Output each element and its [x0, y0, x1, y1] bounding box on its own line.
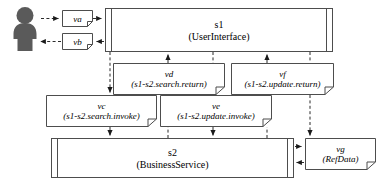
- note-vb[interactable]: vb: [62, 33, 93, 50]
- note-vg[interactable]: vg (RefData): [305, 138, 376, 170]
- note-vb-shape: [62, 33, 93, 50]
- note-vd-shape: [113, 63, 225, 95]
- note-vd[interactable]: vd (s1-s2.search.return): [113, 63, 225, 95]
- note-vc[interactable]: vc (s1-s2.search.invoke): [46, 95, 157, 127]
- component-s1-stereotype: (UserInterface): [106, 30, 332, 42]
- user-actor: [8, 6, 42, 52]
- note-va[interactable]: va: [62, 10, 93, 27]
- component-s2[interactable]: s2 (BusinessService): [51, 138, 294, 178]
- component-s1[interactable]: s1 (UserInterface): [105, 8, 333, 52]
- note-ve-shape: [160, 95, 272, 127]
- note-vc-shape: [46, 95, 157, 127]
- component-s2-label: s2 (BusinessService): [52, 147, 293, 170]
- component-s2-name: s2: [52, 147, 293, 159]
- note-ve[interactable]: ve (s1-s2.update.invoke): [160, 95, 272, 127]
- component-s2-stereotype: (BusinessService): [52, 158, 293, 170]
- note-vf-shape: [231, 63, 334, 95]
- note-vg-shape: [305, 138, 376, 170]
- component-s1-label: s1 (UserInterface): [106, 19, 332, 42]
- note-va-shape: [62, 10, 93, 27]
- note-vf[interactable]: vf (s1-s2.update.return): [231, 63, 334, 95]
- component-s1-name: s1: [106, 19, 332, 31]
- diagram-canvas: s1 (UserInterface) s2 (BusinessService) …: [0, 0, 386, 188]
